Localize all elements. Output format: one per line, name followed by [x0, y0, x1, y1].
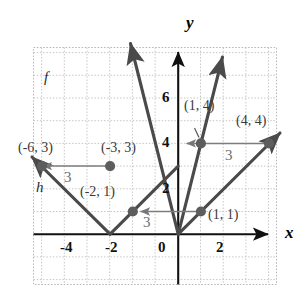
y-tick-2: 2 — [162, 181, 170, 196]
y-axis-label: y — [186, 14, 194, 31]
point-label-neg2-1: (-2, 1) — [80, 185, 115, 199]
point-neg2-1 — [128, 206, 138, 216]
point-1-4 — [196, 138, 206, 148]
point-label-4-4: (4, 4) — [236, 114, 266, 128]
point-1-1 — [196, 206, 206, 216]
x-axis-label: x — [285, 224, 294, 241]
point-label-1-4: (1, 4) — [184, 99, 214, 113]
x-tick-neg2: -2 — [105, 240, 118, 255]
y-tick-6: 6 — [162, 90, 170, 105]
x-tick-2: 2 — [216, 240, 224, 255]
point-neg3-3 — [105, 161, 115, 171]
x-tick-0: 0 — [158, 240, 166, 255]
y-tick-4: 4 — [162, 135, 170, 150]
x-tick-neg4: -4 — [60, 240, 73, 255]
graph-figure: y x 6 4 2 -4 -2 0 2 f h (-6, 3) (-3, 3) … — [0, 0, 305, 293]
point-4-4 — [264, 138, 274, 148]
shift-label-bottom: 3 — [143, 215, 151, 230]
point-label-neg3-3: (-3, 3) — [101, 141, 136, 155]
point-neg6-3 — [37, 161, 47, 171]
point-label-neg6-3: (-6, 3) — [18, 141, 53, 155]
point-label-1-1: (1, 1) — [208, 208, 238, 222]
shift-label-top-right: 3 — [225, 148, 233, 163]
curve-label-h: h — [36, 180, 44, 195]
shift-label-top-left: 3 — [64, 170, 72, 185]
curve-label-f: f — [44, 70, 48, 85]
